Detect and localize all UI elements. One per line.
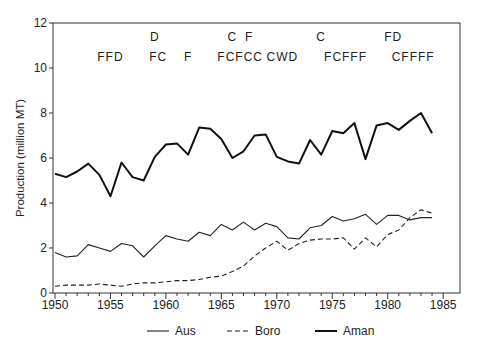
annotation-label: C (228, 30, 238, 44)
legend: AusBoroAman (147, 324, 374, 338)
x-tick-label: 1950 (42, 298, 69, 312)
x-tick-label: 1985 (430, 298, 457, 312)
y-tick-label: 6 (40, 151, 47, 165)
y-tick-label: 2 (40, 241, 47, 255)
annotation-label: FD (384, 30, 402, 44)
x-tick-label: 1970 (263, 298, 290, 312)
y-axis-title: Production (million MT) (14, 99, 26, 217)
series-line-aman (55, 113, 432, 196)
y-tick-label: 10 (34, 61, 48, 75)
legend-label-aman: Aman (343, 324, 374, 338)
x-tick-label: 1965 (208, 298, 235, 312)
series-line-aus (55, 214, 432, 257)
x-tick-label: 1975 (319, 298, 346, 312)
event-annotations: DCFCFDFFDFCFFCFCCCWDFCFFFCFFFF (97, 30, 434, 64)
annotation-label: FCFCC (217, 50, 263, 64)
annotation-label: FC (149, 50, 167, 64)
y-axis: 024681012 (34, 16, 53, 300)
annotation-label: F (245, 30, 253, 44)
y-tick-label: 12 (34, 16, 48, 30)
series-lines (55, 113, 432, 286)
legend-label-boro: Boro (255, 324, 281, 338)
x-tick-label: 1955 (97, 298, 124, 312)
series-line-boro (55, 210, 432, 286)
y-tick-label: 8 (40, 106, 47, 120)
annotation-label: D (150, 30, 160, 44)
annotation-label: CWD (267, 50, 299, 64)
x-tick-label: 1980 (374, 298, 401, 312)
annotation-label: F (184, 50, 192, 64)
production-line-chart: 024681012 195019551960196519701975198019… (0, 0, 481, 351)
annotation-label: CFFFF (392, 50, 435, 64)
x-tick-label: 1960 (153, 298, 180, 312)
legend-label-aus: Aus (175, 324, 196, 338)
annotation-label: FCFFF (324, 50, 367, 64)
annotation-label: C (316, 30, 326, 44)
annotation-label: FFD (97, 50, 123, 64)
x-axis: 19501955196019651970197519801985 (42, 293, 457, 312)
y-tick-label: 4 (40, 196, 47, 210)
